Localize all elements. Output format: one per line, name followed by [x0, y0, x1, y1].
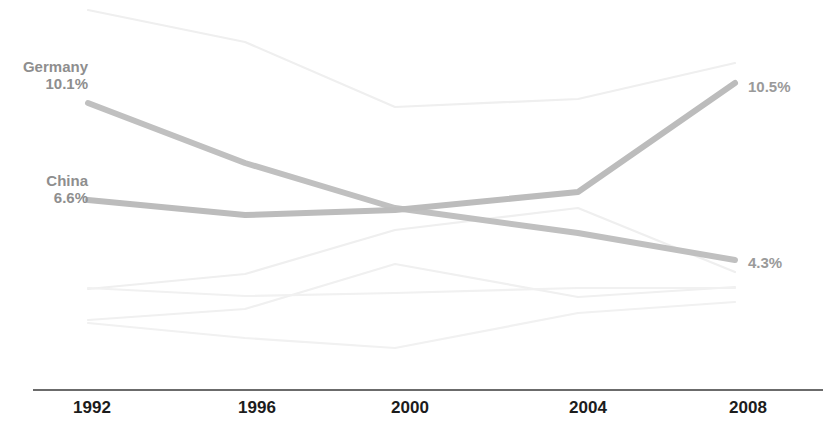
series-label-germany: Germany 10.1% [10, 58, 88, 93]
series-label-germany-name: Germany [10, 58, 88, 75]
background-line-1 [88, 10, 735, 107]
slope-chart: Germany 10.1% China 6.6% 10.5% 4.3% 1992… [0, 0, 823, 437]
background-line-4 [88, 288, 735, 296]
series-label-china-name: China [10, 172, 88, 189]
chart-plot-area [0, 0, 823, 437]
endpoint-value-germany: 4.3% [748, 254, 782, 271]
series-label-china-value: 6.6% [10, 189, 88, 206]
series-line-germany[interactable] [88, 103, 735, 260]
x-tick-label-1996: 1996 [197, 398, 317, 418]
x-tick-label-1992: 1992 [32, 398, 152, 418]
series-line-china[interactable] [88, 83, 735, 215]
background-line-2 [88, 208, 735, 289]
x-axis-tick-labels: 1992 1996 2000 2004 2008 [0, 398, 823, 432]
endpoint-value-china: 10.5% [748, 78, 791, 95]
x-tick-label-2008: 2008 [688, 398, 808, 418]
background-series-group [88, 10, 735, 348]
series-label-china: China 6.6% [10, 172, 88, 207]
x-tick-label-2000: 2000 [350, 398, 470, 418]
series-label-germany-value: 10.1% [10, 75, 88, 92]
x-tick-label-2004: 2004 [528, 398, 648, 418]
background-line-5 [88, 302, 735, 348]
